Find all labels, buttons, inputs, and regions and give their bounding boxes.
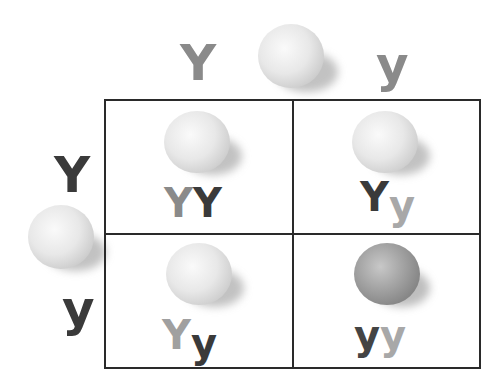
yellow-pea-icon	[166, 243, 232, 305]
yellow-pea-icon	[352, 111, 418, 173]
cell-Yy-top-right: Y y	[294, 101, 479, 233]
allele-from-left: Y	[360, 177, 389, 225]
cell-yy: y y	[294, 235, 479, 367]
allele-from-left: y	[191, 323, 217, 363]
cell-Yy-bottom-left: Y y	[106, 235, 292, 367]
left-parent-allele-dominant: Y	[54, 150, 90, 200]
allele-from-left: y	[354, 315, 380, 355]
allele-from-top: Y	[162, 315, 191, 363]
genotype-label: y y	[354, 315, 406, 355]
genotype-label: Y y	[162, 315, 217, 363]
top-parent-allele-recessive: y	[376, 40, 409, 90]
genotype-label: Y Y	[164, 183, 222, 223]
left-parent-pea-icon	[28, 205, 94, 269]
yellow-pea-icon	[164, 111, 230, 173]
green-pea-icon	[354, 243, 420, 305]
left-parent-allele-recessive: y	[62, 284, 95, 334]
allele-from-left: Y	[193, 183, 222, 223]
cell-YY: Y Y	[106, 101, 292, 233]
genotype-label: Y y	[360, 177, 415, 225]
allele-from-top: Y	[164, 183, 193, 223]
top-parent-allele-dominant: Y	[180, 38, 216, 88]
top-parent-pea-icon	[258, 24, 324, 88]
allele-from-top: y	[380, 315, 406, 355]
allele-from-top: y	[389, 185, 415, 225]
